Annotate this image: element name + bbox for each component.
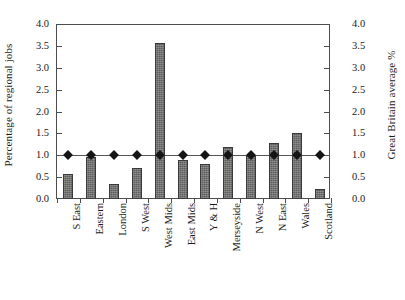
x-axis-label-text: London <box>117 203 128 236</box>
bar <box>246 156 256 199</box>
x-axis-label-text: N East <box>277 203 288 231</box>
bar <box>292 133 302 199</box>
bar <box>132 168 142 199</box>
x-axis-label-text: S East <box>71 203 82 230</box>
x-axis-category-labels: S EastEasternLondonS WestWest MidsEast M… <box>56 203 330 298</box>
y-tick-label-left: 0.5 <box>19 172 49 182</box>
bar <box>200 164 210 199</box>
y-tick-label-right: 2.0 <box>352 107 382 117</box>
x-axis-label: N West <box>250 203 261 234</box>
x-axis-label-text: N West <box>254 203 265 234</box>
x-axis-label: West Mids <box>159 203 170 248</box>
y-axis-title-right-text: Great Britain average % <box>385 51 397 160</box>
y-tick-label-right: 3.0 <box>352 63 382 73</box>
x-axis-label-text: Wales <box>300 203 311 228</box>
bar <box>155 43 165 199</box>
y-tick-label-right: 3.5 <box>352 41 382 51</box>
x-axis-label: Merseyside <box>227 203 238 251</box>
bar <box>86 157 96 199</box>
bar-series <box>57 24 329 199</box>
y-axis-title-left: Percentage of regional jobs <box>0 0 16 210</box>
y-tick-label-left: 2.0 <box>19 107 49 117</box>
bar <box>63 174 73 199</box>
y-tick-label-right: 2.5 <box>352 85 382 95</box>
y-tick-label-left: 3.5 <box>19 41 49 51</box>
x-axis-label: London <box>113 203 124 236</box>
x-axis-label: S East <box>67 203 78 230</box>
y-tick-label-right: 0.0 <box>352 194 382 204</box>
x-axis-label: East Mids <box>182 203 193 245</box>
y-axis-title-left-text: Percentage of regional jobs <box>2 44 14 167</box>
y-tick-label-left: 2.5 <box>19 85 49 95</box>
y-tick-label-left: 3.0 <box>19 63 49 73</box>
x-axis-label-text: East Mids <box>186 203 197 245</box>
y-tick-label-left: 0.0 <box>19 194 49 204</box>
x-axis-label-text: West Mids <box>163 203 174 248</box>
x-axis-label: Scotland <box>319 203 330 240</box>
x-axis-label: Wales <box>296 203 307 228</box>
plot-area <box>56 24 330 199</box>
x-axis-label-text: Y & H <box>208 203 219 231</box>
x-axis-label-text: Merseyside <box>231 203 242 251</box>
y-axis-title-right: Great Britain average % <box>383 0 399 210</box>
x-axis-label: Y & H <box>204 203 215 231</box>
x-axis-label: S West <box>136 203 147 232</box>
x-axis-label: Eastern <box>90 203 101 235</box>
x-axis-label-text: Scotland <box>323 203 334 240</box>
y-tick-label-right: 4.0 <box>352 19 382 29</box>
x-axis-label: N East <box>273 203 284 231</box>
y-tick-label-right: 1.0 <box>352 150 382 160</box>
y-axis-tick-labels-right: 0.00.51.01.52.02.53.03.54.0 <box>352 0 382 210</box>
y-axis-tick-labels-left: 0.00.51.01.52.02.53.03.54.0 <box>19 0 49 210</box>
bar <box>109 184 119 199</box>
x-axis-label-text: Eastern <box>94 203 105 235</box>
bar <box>178 160 188 199</box>
y-tick-label-left: 4.0 <box>19 19 49 29</box>
chart-container: Percentage of regional jobs Great Britai… <box>0 0 405 300</box>
y-tick-label-right: 0.5 <box>352 172 382 182</box>
bar <box>315 189 325 199</box>
y-tick-label-left: 1.5 <box>19 128 49 138</box>
great-britain-average-line <box>57 155 329 156</box>
x-axis-label-text: S West <box>140 203 151 232</box>
y-tick-label-right: 1.5 <box>352 128 382 138</box>
y-tick-label-left: 1.0 <box>19 150 49 160</box>
